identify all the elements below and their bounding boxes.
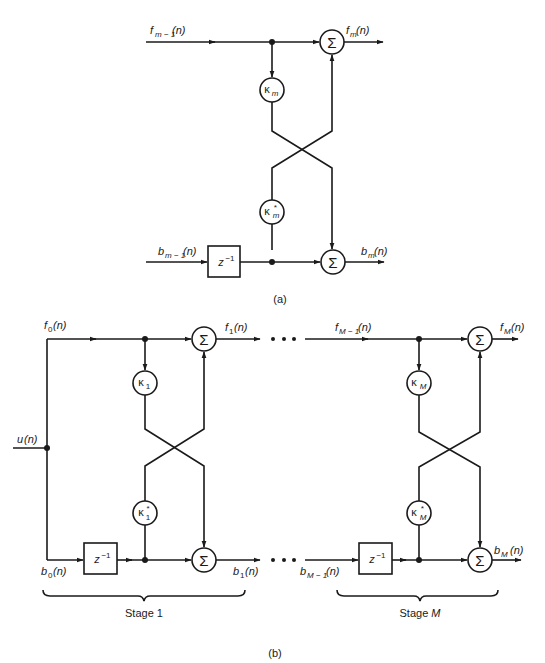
delay-block: z −1	[208, 246, 240, 277]
kappa-conj-M-multiplier: κ * M	[407, 501, 431, 525]
svg-text:1: 1	[146, 382, 151, 391]
label-u: u (n)	[17, 433, 38, 445]
stageM-delay-block: z −1	[359, 543, 392, 574]
stage1-delay-block: z −1	[84, 543, 117, 574]
svg-text:(n): (n)	[374, 245, 388, 257]
svg-text:κ: κ	[411, 376, 417, 388]
svg-text:κ: κ	[264, 83, 270, 95]
stageM-forward-summer: Σ	[468, 327, 492, 351]
svg-text:f: f	[150, 24, 154, 36]
svg-text:(n): (n)	[53, 319, 67, 331]
kappa-M-multiplier: κ M	[407, 371, 431, 395]
svg-text:κ: κ	[138, 376, 144, 388]
kappa-conj-1-multiplier: κ * 1	[133, 501, 157, 525]
svg-text:z: z	[217, 256, 224, 268]
svg-text:*: *	[146, 504, 149, 513]
svg-text:b: b	[494, 544, 500, 556]
kappa-1-multiplier: κ 1	[133, 371, 157, 395]
stage1-backward-summer: Σ	[192, 548, 216, 572]
backward-summer: Σ	[321, 250, 345, 274]
svg-text:(n): (n)	[183, 245, 197, 257]
label-b-m-minus-1: b m − 1 (n)	[158, 245, 197, 260]
svg-text:M: M	[420, 382, 427, 391]
stage-1: Σ κ 1 κ * 1 z −1	[43, 327, 260, 619]
svg-text:m: m	[272, 89, 279, 98]
svg-text:b: b	[41, 565, 47, 577]
stage1-backward-dot	[142, 557, 148, 563]
svg-text:(n): (n)	[510, 544, 524, 556]
label-f-m-minus-1: f m − 1 (n)	[150, 24, 186, 39]
stage1-label: Stage 1	[125, 607, 163, 619]
label-bM: b M (n)	[494, 544, 524, 559]
cross-wire-up	[272, 55, 332, 200]
cross-wire-down	[272, 102, 332, 249]
caption-a: (a)	[273, 293, 286, 305]
svg-text:(n): (n)	[24, 433, 38, 445]
svg-text:−1: −1	[376, 551, 386, 560]
svg-text:u: u	[17, 433, 23, 445]
label-b-m: b m (n)	[361, 245, 388, 260]
svg-text:κ: κ	[411, 506, 417, 518]
svg-text:(n): (n)	[234, 321, 248, 333]
svg-text:Σ: Σ	[475, 552, 484, 569]
kappa-conj-m-multiplier: κ * m	[260, 200, 284, 224]
lattice-diagram: Σ κ m κ * m z −1 Σ	[0, 0, 545, 663]
stageM-backward-dot	[416, 557, 422, 563]
svg-text:z: z	[93, 553, 100, 565]
stageM-brace	[337, 590, 498, 601]
label-b0: b 0 (n)	[41, 565, 67, 580]
svg-text:M − 1: M − 1	[339, 327, 359, 336]
single-stage-lattice: Σ κ m κ * m z −1 Σ	[146, 24, 388, 305]
svg-text:(n): (n)	[326, 565, 340, 577]
svg-text:Σ: Σ	[199, 331, 208, 348]
forward-summer: Σ	[320, 30, 344, 54]
svg-text:−1: −1	[225, 254, 235, 263]
svg-text:1: 1	[146, 513, 151, 522]
multistage-lattice: u (n) Σ κ 1 κ	[13, 319, 525, 659]
svg-text:M: M	[420, 513, 427, 522]
svg-text:M: M	[504, 327, 511, 336]
svg-text:Σ: Σ	[328, 254, 337, 271]
svg-text:(n): (n)	[53, 565, 67, 577]
svg-text:(n): (n)	[245, 565, 259, 577]
svg-text:(n): (n)	[172, 24, 186, 36]
svg-text:b: b	[233, 565, 239, 577]
label-b1: b 1 (n)	[233, 565, 259, 580]
stage1-cross-down	[145, 395, 204, 547]
input-junction-dot	[44, 445, 50, 451]
sigma-symbol: Σ	[327, 34, 336, 51]
stageM-cross-down	[419, 395, 480, 547]
label-bM-1: b M − 1 (n)	[300, 565, 340, 580]
caption-b: (b)	[268, 647, 281, 659]
svg-text:(n): (n)	[511, 321, 525, 333]
svg-text:κ: κ	[138, 506, 144, 518]
svg-text:b: b	[300, 565, 306, 577]
svg-text:M − 1: M − 1	[307, 571, 327, 580]
svg-text:b: b	[361, 245, 367, 257]
label-fM: f M (n)	[500, 321, 525, 336]
stageM-label: Stage M	[400, 607, 442, 619]
label-f1: f 1 (n)	[225, 321, 248, 336]
svg-text:κ: κ	[264, 205, 270, 217]
svg-text:z: z	[368, 553, 375, 565]
label-fM-1: f M − 1 (n)	[335, 321, 372, 336]
svg-text:Σ: Σ	[475, 331, 484, 348]
svg-text:M: M	[501, 550, 508, 559]
svg-text:(n): (n)	[358, 321, 372, 333]
svg-text:m: m	[273, 211, 280, 220]
svg-text:(n): (n)	[356, 24, 370, 36]
svg-text:b: b	[158, 245, 164, 257]
svg-text:−1: −1	[101, 551, 111, 560]
ellipsis-bottom	[271, 558, 296, 562]
backward-junction-dot	[269, 259, 275, 265]
kappa-m-multiplier: κ m	[260, 78, 284, 102]
stageM-backward-summer: Σ	[468, 548, 492, 572]
svg-text:Σ: Σ	[199, 552, 208, 569]
label-f-m: f m (n)	[346, 24, 370, 39]
stage1-forward-summer: Σ	[192, 327, 216, 351]
label-f0: f 0 (n)	[44, 319, 67, 334]
ellipsis-top	[271, 337, 296, 341]
stage1-brace	[43, 590, 245, 601]
